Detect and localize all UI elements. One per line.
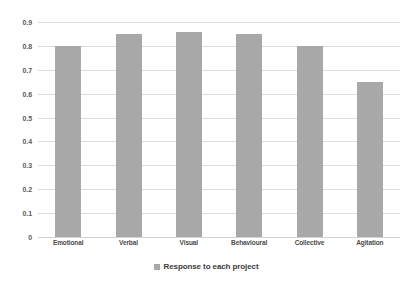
y-axis: 0.90.80.70.60.50.40.30.20.10 bbox=[0, 0, 38, 237]
y-axis-tick-label: 0.9 bbox=[23, 19, 32, 26]
legend-swatch-icon bbox=[154, 264, 160, 270]
y-axis-tick-label: 0.8 bbox=[23, 42, 32, 49]
bar-slot bbox=[55, 22, 81, 237]
bar[interactable] bbox=[116, 34, 142, 237]
y-axis-tick-label: 0.5 bbox=[23, 114, 32, 121]
x-axis-tick-label: Collective bbox=[279, 239, 339, 246]
x-axis-tick-label: Verbal bbox=[98, 239, 158, 246]
y-axis-tick-label: 0.2 bbox=[23, 186, 32, 193]
legend-label: Response to each project bbox=[164, 262, 259, 271]
bar-chart: 0.90.80.70.60.50.40.30.20.10 EmotionalVe… bbox=[0, 0, 412, 283]
bar[interactable] bbox=[297, 46, 323, 237]
x-axis-tick-label: Emotional bbox=[38, 239, 98, 246]
y-axis-tick-label: 0.7 bbox=[23, 66, 32, 73]
y-axis-tick-label: 0 bbox=[28, 234, 32, 241]
chart-legend: Response to each project bbox=[0, 262, 412, 271]
y-axis-tick-label: 0.3 bbox=[23, 162, 32, 169]
bar-series bbox=[38, 22, 400, 237]
bar-slot bbox=[236, 22, 262, 237]
x-axis-tick-label: Agitation bbox=[340, 239, 400, 246]
x-axis-tick-label: Behavioural bbox=[219, 239, 279, 246]
bar-slot bbox=[297, 22, 323, 237]
y-axis-tick-label: 0.4 bbox=[23, 138, 32, 145]
y-axis-tick-label: 0.6 bbox=[23, 90, 32, 97]
bar[interactable] bbox=[357, 82, 383, 237]
axis-baseline bbox=[38, 237, 400, 238]
bar-slot bbox=[357, 22, 383, 237]
bar-slot bbox=[116, 22, 142, 237]
bar[interactable] bbox=[236, 34, 262, 237]
bar[interactable] bbox=[55, 46, 81, 237]
bar-slot bbox=[176, 22, 202, 237]
x-axis-tick-label: Visual bbox=[159, 239, 219, 246]
x-axis: EmotionalVerbalVisualBehaviouralCollecti… bbox=[38, 239, 400, 253]
bar[interactable] bbox=[176, 32, 202, 237]
y-axis-tick-label: 0.1 bbox=[23, 210, 32, 217]
